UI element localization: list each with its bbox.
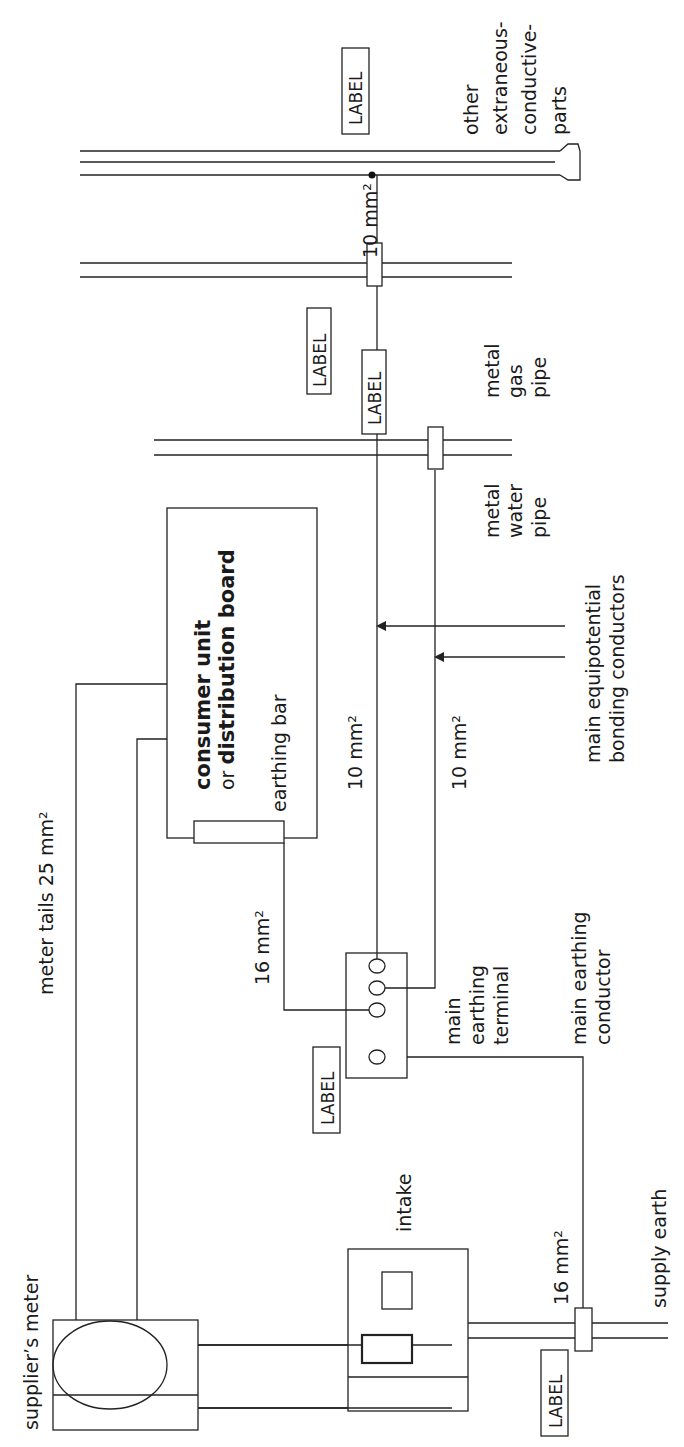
svg-text:LABEL: LABEL [318,1071,338,1125]
meter-tails-label: meter tails 25 mm² [35,811,57,995]
svg-text:other: other [460,84,482,135]
svg-text:main equipotential: main equipotential [582,584,604,763]
svg-text:10 mm²: 10 mm² [359,183,381,258]
svg-text:or distribution board: or distribution board [215,549,239,790]
meter-tail-2 [137,739,167,1320]
svg-text:bonding conductors: bonding conductors [606,574,628,763]
svg-text:conductor: conductor [592,949,614,1045]
svg-text:conductive-: conductive- [518,24,540,135]
svg-text:pipe: pipe [528,497,550,538]
earthing-bonding-diagram: LABEL LABEL LABEL LABEL LABEL supplier’s… [0,0,684,1447]
svg-text:10 mm²: 10 mm² [448,715,470,790]
svg-text:earthing bar: earthing bar [268,694,290,812]
svg-text:LABEL: LABEL [365,371,385,425]
svg-text:main earthing: main earthing [568,911,590,1045]
svg-text:10 mm²: 10 mm² [344,715,366,790]
suppliers-meter-label: supplier’s meter [20,1275,42,1430]
supply-earth-clamp [575,1308,592,1351]
svg-text:water: water [504,484,526,538]
svg-text:metal: metal [481,343,503,398]
svg-text:earthing: earthing [466,965,488,1045]
svg-text:metal: metal [481,483,503,538]
intake [198,1249,468,1411]
svg-text:LABEL: LABEL [546,1374,566,1428]
svg-text:supply earth: supply earth [648,1189,670,1308]
water-pipe-clamp [428,427,443,469]
svg-text:pipe: pipe [528,357,550,398]
svg-text:parts: parts [548,86,570,135]
main-earthing-terminal [346,953,407,1078]
meter-tail-1 [76,684,167,1320]
svg-text:LABEL: LABEL [310,333,330,387]
suppliers-meter [53,1320,198,1430]
svg-text:terminal: terminal [490,966,512,1045]
svg-text:extraneous-: extraneous- [489,21,511,135]
svg-text:gas: gas [504,364,526,398]
svg-text:16 mm²: 16 mm² [251,910,273,985]
bonding-conductor-water [385,470,435,988]
svg-text:main: main [442,998,464,1045]
svg-text:intake: intake [393,1174,415,1232]
consumer-unit [167,508,317,843]
svg-text:16 mm²: 16 mm² [550,1230,572,1305]
svg-text:LABEL: LABEL [346,71,366,125]
svg-text:consumer unit: consumer unit [191,620,215,790]
